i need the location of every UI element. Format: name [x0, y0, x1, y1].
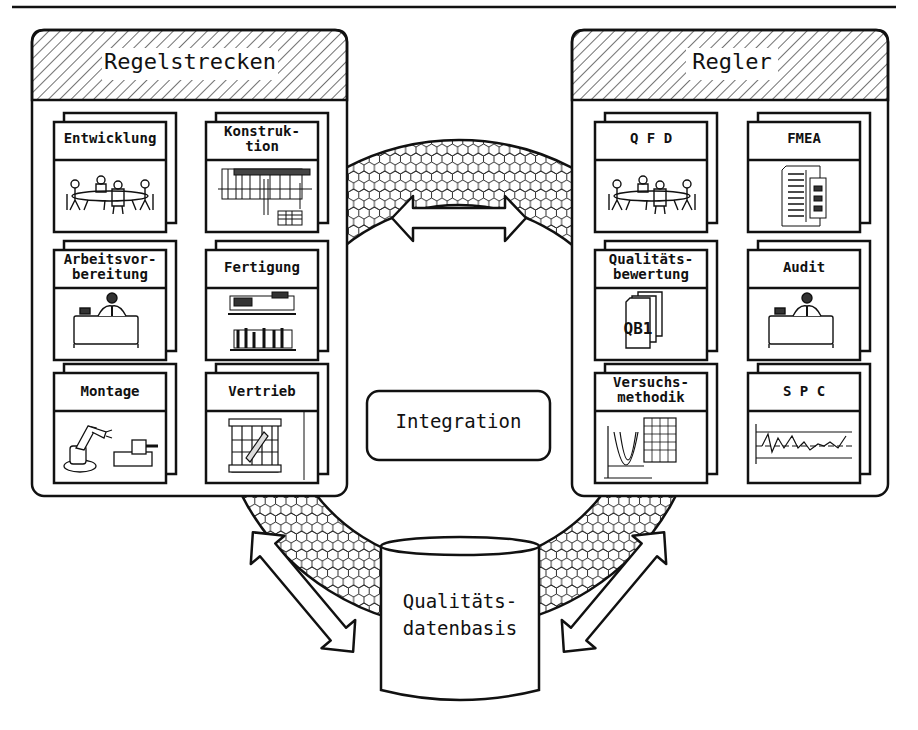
card-label: Entwicklung	[54, 131, 166, 146]
card-label: Versuchs- methodik	[595, 375, 707, 404]
card-label: Arbeitsvor- bereitung	[54, 252, 166, 281]
integration-label: Integration	[367, 412, 550, 432]
left-panel-title: Regelstrecken	[102, 50, 278, 73]
database-label: Qualitäts- datenbasis	[381, 588, 539, 641]
card-label: Q F D	[595, 131, 707, 146]
right-panel-title: Regler	[686, 50, 778, 73]
card-label: Qualitäts- bewertung	[595, 252, 707, 281]
card-label: Konstruk- tion	[206, 124, 318, 153]
card-label: Montage	[54, 384, 166, 399]
card-label: Vertrieb	[206, 384, 318, 399]
document-stack-icon: QB1	[624, 292, 662, 348]
card-label: Audit	[748, 260, 860, 275]
document-form-icon	[782, 166, 826, 226]
card-label: Fertigung	[206, 260, 318, 275]
card-label: S P C	[748, 384, 860, 399]
qb1-text: QB1	[624, 319, 653, 338]
card-label: FMEA	[748, 131, 860, 146]
